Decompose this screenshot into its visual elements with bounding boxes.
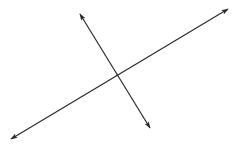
line-b [80,14,150,128]
intersection-point [116,74,118,76]
line-a [11,9,228,139]
intersecting-lines-diagram [0,0,238,148]
